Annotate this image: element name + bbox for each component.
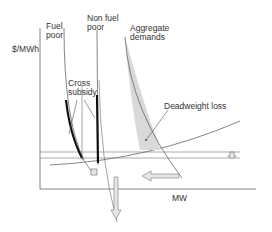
cross-subsidy-marker [91, 169, 97, 175]
fuel-poor-label: Fuel poor [46, 22, 63, 40]
deadweight-loss-area [125, 37, 161, 150]
deadweight-loss-dot [145, 139, 147, 141]
cross-subsidy-diagram: $/MWh Fuel poor Non fuel poor Aggregate … [0, 0, 272, 232]
left-arrow-icon [142, 171, 179, 181]
non-fuel-poor-label: Non fuel poor [87, 14, 119, 32]
aggregate-demands-label: Aggregate demands [130, 24, 169, 42]
x-axis-label: MW [172, 194, 187, 203]
y-axis-label: $/MWh [12, 45, 39, 54]
down-arrow-icon [111, 177, 121, 219]
cross-subsidy-pointer-2 [84, 100, 95, 118]
cross-subsidy-label: Cross subsidy [68, 79, 97, 97]
non-fuel-poor-demand-bold [97, 95, 98, 163]
deadweight-loss-label: Deadweight loss [164, 102, 226, 111]
